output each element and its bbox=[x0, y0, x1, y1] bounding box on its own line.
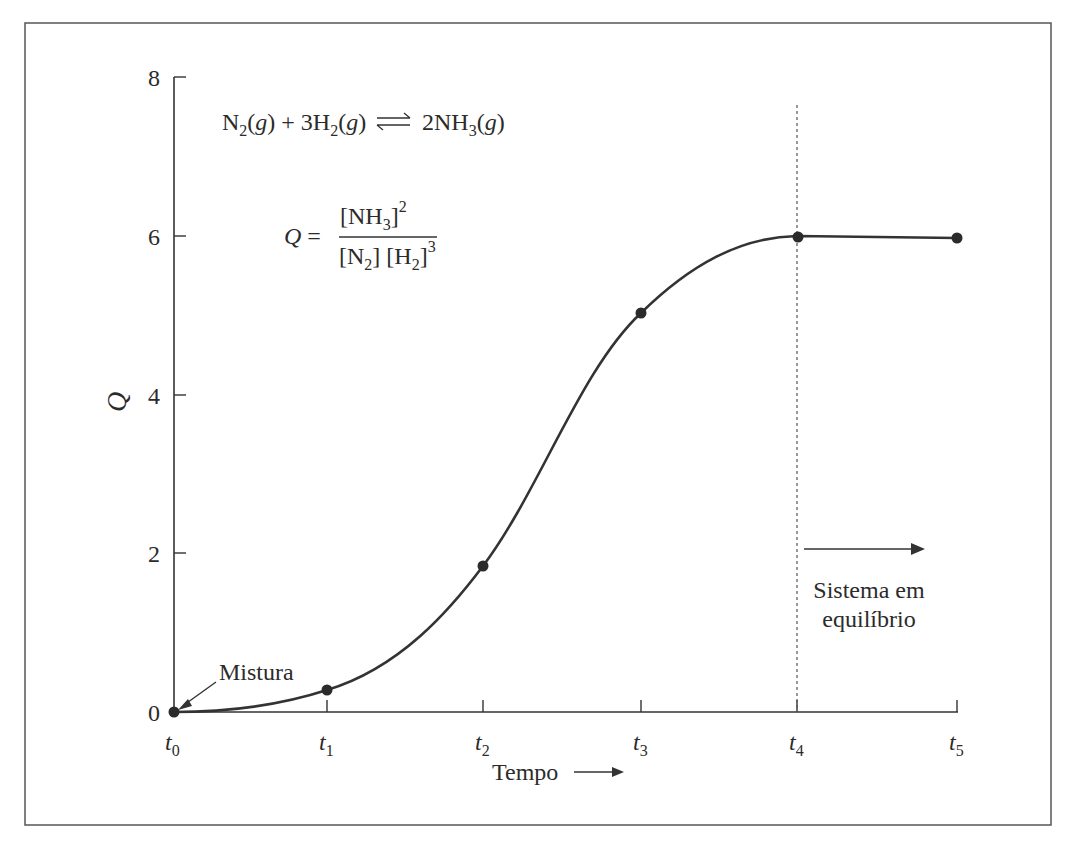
equilibrium-label-line1: Sistema em bbox=[813, 577, 925, 603]
reaction-quotient: Q = [NH3]2 [N2] [H2]3 bbox=[284, 198, 437, 273]
x-axis-arrow-icon bbox=[574, 767, 624, 777]
svg-text:[N2] [H2]3: [N2] [H2]3 bbox=[339, 238, 436, 273]
point-t2 bbox=[478, 561, 489, 572]
x-tick-t1: t1 bbox=[319, 729, 334, 759]
x-tick-t3: t3 bbox=[633, 729, 648, 759]
mistura-arrow-icon bbox=[178, 682, 216, 710]
point-t0 bbox=[169, 707, 180, 718]
figure-frame bbox=[25, 23, 1051, 825]
x-axis-label: Tempo bbox=[492, 759, 558, 785]
x-tick-labels: t0 t1 t2 t3 t4 t5 bbox=[165, 729, 964, 759]
q-curve bbox=[174, 236, 957, 712]
y-tick-2: 2 bbox=[148, 541, 160, 567]
y-axis-label: Q bbox=[101, 392, 132, 412]
svg-text:[NH3]2: [NH3]2 bbox=[340, 198, 407, 233]
y-tick-8: 8 bbox=[148, 65, 160, 91]
y-tick-labels: 8 6 4 2 0 bbox=[148, 65, 160, 726]
chart-canvas: 8 6 4 2 0 Q t0 t1 t2 t3 t4 t5 Tempo Sist… bbox=[0, 0, 1075, 848]
y-tick-0: 0 bbox=[148, 700, 160, 726]
y-ticks bbox=[174, 77, 186, 553]
point-t5 bbox=[952, 233, 963, 244]
svg-text:Q =: Q = bbox=[284, 223, 321, 249]
equilibrium-arrow-icon bbox=[804, 543, 925, 555]
x-tick-t5: t5 bbox=[949, 729, 964, 759]
y-tick-6: 6 bbox=[148, 224, 160, 250]
x-tick-t0: t0 bbox=[165, 729, 180, 759]
x-tick-t4: t4 bbox=[789, 729, 804, 759]
x-ticks bbox=[327, 700, 957, 712]
point-t4 bbox=[793, 232, 804, 243]
point-t1 bbox=[322, 685, 333, 696]
reaction-product: 2NH3(g) bbox=[422, 109, 505, 139]
mistura-label: Mistura bbox=[219, 659, 294, 685]
equilibrium-label-line2: equilíbrio bbox=[822, 606, 915, 632]
data-points bbox=[169, 232, 963, 718]
x-tick-t2: t2 bbox=[475, 729, 490, 759]
equilibrium-arrows-icon bbox=[377, 113, 410, 130]
y-tick-4: 4 bbox=[148, 383, 160, 409]
reaction-equation: N2(g) + 3H2(g) bbox=[222, 109, 366, 139]
point-t3 bbox=[636, 308, 647, 319]
